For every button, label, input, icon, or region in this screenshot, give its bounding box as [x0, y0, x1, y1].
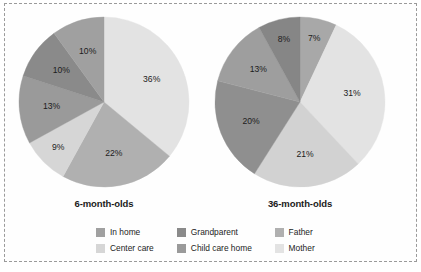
- legend-swatch-father: [275, 228, 284, 237]
- legend-item-grandparent: Grandparent: [177, 227, 275, 237]
- legend-label-in-home: In home: [110, 227, 140, 237]
- legend-row: Center care Child care home Mother: [96, 240, 331, 256]
- pie-slice-label: 9%: [52, 142, 65, 152]
- pie-slice-label: 13%: [250, 64, 268, 74]
- legend-item-father: Father: [275, 227, 331, 237]
- pie-slice-label: 22%: [105, 148, 123, 158]
- legend-swatch-center-care: [96, 244, 105, 253]
- pie-chart-36-month-olds: 7%31%21%20%13%8% 36-month-olds: [214, 10, 386, 196]
- pie-svg-b: 7%31%21%20%13%8%: [214, 10, 386, 196]
- legend-label-father: Father: [289, 227, 313, 237]
- pie-chart-6-month-olds: 36%22%9%13%10%10% 6-month-olds: [18, 10, 190, 196]
- legend-swatch-child-care-home: [177, 244, 186, 253]
- pie-slice-label: 7%: [308, 33, 321, 43]
- legend-swatch-grandparent: [177, 228, 186, 237]
- pie-slice-label: 20%: [242, 116, 260, 126]
- legend-item-mother: Mother: [275, 243, 331, 253]
- pie-slice-label: 36%: [143, 74, 161, 84]
- legend-swatch-in-home: [96, 228, 105, 237]
- figure-container: 36%22%9%13%10%10% 6-month-olds 7%31%21%2…: [0, 0, 421, 272]
- legend-label-grandparent: Grandparent: [191, 227, 238, 237]
- pie-slice-label: 13%: [43, 101, 61, 111]
- pie-plot-area-b: 7%31%21%20%13%8%: [214, 10, 386, 196]
- pie-slice-label: 31%: [343, 88, 361, 98]
- pie-slice-label: 10%: [79, 46, 97, 56]
- legend-row: In home Grandparent Father: [96, 224, 331, 240]
- legend-item-child-care-home: Child care home: [177, 243, 275, 253]
- legend-label-mother: Mother: [289, 243, 315, 253]
- legend-item-in-home: In home: [96, 227, 177, 237]
- pie-plot-area-a: 36%22%9%13%10%10%: [18, 10, 190, 196]
- legend-label-center-care: Center care: [110, 243, 154, 253]
- pie-slice-label: 8%: [278, 34, 291, 44]
- pie-slice-label: 10%: [53, 65, 71, 75]
- legend-item-center-care: Center care: [96, 243, 177, 253]
- chart-title-a: 6-month-olds: [18, 198, 190, 209]
- pie-svg-a: 36%22%9%13%10%10%: [18, 10, 190, 196]
- legend-swatch-mother: [275, 244, 284, 253]
- pie-slice-label: 21%: [296, 149, 314, 159]
- legend: In home Grandparent Father Center care C…: [96, 224, 331, 256]
- chart-title-b: 36-month-olds: [214, 198, 386, 209]
- legend-label-child-care-home: Child care home: [191, 243, 252, 253]
